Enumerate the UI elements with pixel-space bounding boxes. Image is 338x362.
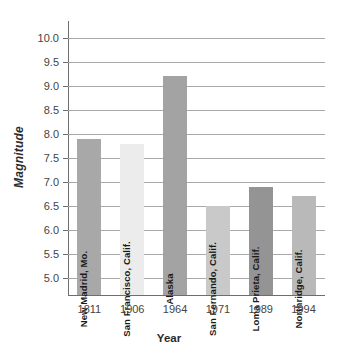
y-tick-label: 7.5	[44, 152, 59, 164]
x-tick-label: 1989	[249, 303, 273, 315]
bar-label: San Fernando, Calif.	[207, 242, 218, 336]
y-tick-label: 8.5	[44, 104, 59, 116]
y-tick-label: 6.5	[44, 200, 59, 212]
gridline	[68, 230, 325, 231]
x-axis-spine	[68, 295, 325, 296]
gridline	[68, 158, 325, 159]
y-axis-tick	[63, 206, 68, 207]
gridline	[68, 86, 325, 87]
x-tick-label: 1811	[78, 303, 102, 315]
gridline	[68, 254, 325, 255]
y-axis-title: Magnitude	[12, 112, 26, 202]
bar-label: Northridge, Calif.	[293, 250, 304, 329]
y-axis-tick	[63, 230, 68, 231]
x-tick-label: 1906	[120, 303, 144, 315]
y-tick-label: 10.0	[38, 32, 59, 44]
bar-label: Alaska	[164, 273, 175, 304]
y-tick-label: 6.0	[44, 224, 59, 236]
gridline	[68, 182, 325, 183]
x-tick-label: 1994	[291, 303, 315, 315]
bar-label: San Francisco, Calif.	[121, 241, 132, 337]
y-axis-tick	[63, 38, 68, 39]
gridline	[68, 206, 325, 207]
y-axis-tick	[63, 86, 68, 87]
y-axis-tick	[63, 134, 68, 135]
gridline	[68, 134, 325, 135]
bar[interactable]: San Fernando, Calif.	[206, 206, 230, 295]
y-axis-tick	[63, 254, 68, 255]
gridline	[68, 278, 325, 279]
x-tick-label: 1971	[206, 303, 230, 315]
bar[interactable]: Alaska	[163, 76, 187, 295]
bar-label: Loma Prieta, Calif.	[250, 247, 261, 332]
bar[interactable]: Northridge, Calif.	[292, 196, 316, 295]
gridline	[68, 38, 325, 39]
y-axis-tick	[63, 158, 68, 159]
bar[interactable]: San Francisco, Calif.	[120, 144, 144, 295]
gridline	[68, 62, 325, 63]
plot-area: 10.09.59.08.58.07.57.06.56.05.55.0 New M…	[68, 21, 325, 295]
y-axis-tick	[63, 182, 68, 183]
y-axis-tick	[63, 62, 68, 63]
bar[interactable]: Loma Prieta, Calif.	[249, 187, 273, 295]
earthquake-magnitude-bar-chart: Magnitude 10.09.59.08.58.07.57.06.56.05.…	[0, 0, 338, 362]
x-tick-label: 1964	[163, 303, 187, 315]
y-tick-label: 8.0	[44, 128, 59, 140]
y-axis-tick	[63, 110, 68, 111]
x-axis-title: Year	[0, 332, 338, 344]
y-tick-label: 5.0	[44, 272, 59, 284]
y-tick-label: 9.0	[44, 80, 59, 92]
y-tick-label: 5.5	[44, 248, 59, 260]
bar[interactable]: New Madrid, Mo.	[77, 139, 101, 295]
y-tick-label: 7.0	[44, 176, 59, 188]
y-tick-label: 9.5	[44, 56, 59, 68]
y-axis-tick	[63, 278, 68, 279]
bar-label: New Madrid, Mo.	[78, 251, 89, 327]
gridline	[68, 110, 325, 111]
